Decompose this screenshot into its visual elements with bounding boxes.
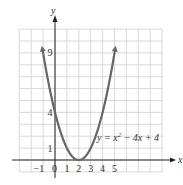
x-tick-label: 4 (100, 163, 105, 174)
y-tick-label: 1 (48, 143, 53, 154)
y-axis-arrow-icon (53, 15, 58, 22)
x-tick-label: 2 (76, 163, 81, 174)
x-tick-labels: −1012345 (34, 163, 117, 174)
x-tick-label: 0 (52, 163, 57, 174)
x-tick-label: 1 (64, 163, 69, 174)
y-tick-label: 9 (48, 47, 53, 58)
x-tick-label: 3 (88, 163, 93, 174)
x-tick-label: 5 (112, 163, 117, 174)
x-axis-arrow-icon (170, 158, 176, 163)
y-axis-label: y (50, 5, 56, 16)
axes (12, 15, 176, 178)
x-axis-label: x (177, 154, 183, 165)
parabola-plot: x y −1012345 149 y = x2 − 4x + 4 (0, 0, 183, 185)
equation-label: y = x2 − 4x + 4 (96, 131, 159, 143)
y-tick-label: 4 (48, 107, 53, 118)
chart: x y −1012345 149 y = x2 − 4x + 4 (0, 0, 183, 185)
x-tick-label: −1 (34, 163, 45, 174)
